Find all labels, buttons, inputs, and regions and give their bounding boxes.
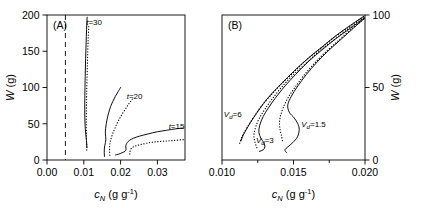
- panel-b-series-4: [285, 18, 365, 153]
- scientific-figure: 0.000.010.020.03050100150200(A)t=30t=20t…: [0, 0, 423, 208]
- panel-b-annotation-0: Vd=6: [224, 110, 242, 120]
- figure-canvas: 0.000.010.020.03050100150200(A)t=30t=20t…: [0, 0, 423, 208]
- panel-a-series-2: [104, 88, 120, 157]
- panel-a-series-4: [115, 128, 183, 155]
- panel-b-xtick-label-0: 0.010: [209, 166, 235, 178]
- panel-b-annotation-2: Vd=1.5: [301, 120, 326, 130]
- panel-b-panel-label: (B): [228, 19, 242, 31]
- panel-a-ytick-label-2: 100: [22, 81, 40, 93]
- panel-b-xtick-label-2: 0.015: [280, 166, 306, 178]
- panel-a-xtick-label-0: 0.00: [37, 166, 58, 178]
- panel-a-annotation-1: t=20: [127, 92, 143, 101]
- panel-b-curves: [239, 16, 365, 152]
- panel-a-xtick-label-2: 0.02: [110, 166, 131, 178]
- panel-a-series-1: [86, 27, 89, 152]
- panel-a-annotation-0: t=30: [86, 18, 102, 27]
- panel-a-ytick-label-3: 150: [22, 45, 40, 57]
- panel-b-ytick-label-1: 50: [373, 81, 385, 93]
- panel-a-xaxis-title: cN (g g-1): [94, 187, 137, 203]
- panel-a-ytick-label-1: 50: [28, 118, 40, 130]
- panel-b-ytick-label-0: 0: [373, 154, 379, 166]
- panel-a-panel-label: (A): [53, 19, 67, 31]
- panel-b-annotation-1: Vd=3: [256, 136, 274, 146]
- panel-a-plot-frame: [47, 15, 185, 160]
- panel-a-curves: [65, 15, 183, 160]
- panel-b-xaxis-title: cN (g g-1): [272, 187, 315, 203]
- panel-a-series-3: [110, 99, 133, 156]
- panel-b: 0.0100.0150.020050100(B)Vd=6Vd=3Vd=1.5cN…: [209, 9, 401, 203]
- panel-b-yaxis-title: W (g): [389, 74, 401, 101]
- panel-a-ytick-label-4: 200: [22, 9, 40, 21]
- panel-b-xtick-label-4: 0.020: [352, 166, 378, 178]
- panel-a: 0.000.010.020.03050100150200(A)t=30t=20t…: [4, 9, 185, 203]
- panel-a-xtick-label-1: 0.01: [74, 166, 95, 178]
- panel-b-series-3: [254, 18, 364, 150]
- panel-b-series-2: [259, 18, 364, 151]
- panel-a-series-5: [130, 140, 183, 157]
- panel-b-ytick-label-2: 100: [373, 9, 391, 21]
- panel-a-yaxis-title: W (g): [4, 74, 16, 101]
- panel-a-annotation-2: t=15: [169, 122, 185, 131]
- panel-a-xtick-label-3: 0.03: [147, 166, 168, 178]
- panel-a-ytick-label-0: 0: [34, 154, 40, 166]
